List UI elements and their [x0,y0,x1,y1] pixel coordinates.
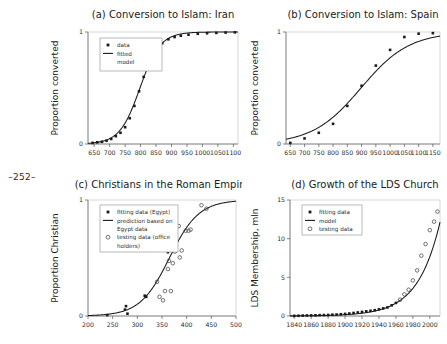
y-axis-label-c: Proportion Christian [50,213,60,302]
data-point-d [335,313,338,316]
x-tick-label-d: 1960 [388,321,404,328]
x-tick-label-d: 1860 [303,321,319,328]
data-point-a [115,135,118,138]
legend-marker-a [107,44,110,47]
y-tick-label-d: 10 [277,235,285,242]
x-tick-label-c: 350 [156,321,168,328]
x-tick-label-d: 1980 [405,321,421,328]
data-point-d [327,314,330,317]
data-point-c [178,256,182,260]
chart-panel-c: (c) Christians in the Roman EmpirePropor… [42,172,242,344]
data-point-d [428,228,432,232]
data-point-a [96,141,99,144]
data-point-c [161,299,165,303]
data-point-b [289,142,292,145]
model-curve-b [286,36,440,139]
legend-label-a: model [117,59,135,65]
data-point-d [306,314,309,317]
x-tick-label-a: 950 [181,149,193,156]
data-point-a [173,36,176,39]
x-tick-label-a: 900 [166,149,178,156]
data-point-c [126,312,129,315]
y-axis-label-d: LDS Membership, mln [250,209,260,308]
data-point-d [365,310,368,313]
data-point-d [310,314,313,317]
data-point-c [171,261,175,265]
data-point-b [317,132,320,135]
figure-page: –252– (a) Conversion to Islam: IranPropo… [0,0,447,344]
chart-svg-c: (c) Christians in the Roman EmpirePropor… [42,172,242,344]
legend-marker-c [107,211,110,214]
x-tick-label-d: 1880 [320,321,336,328]
x-tick-label-d: 1940 [371,321,387,328]
legend-label-d: fitting data [319,209,350,216]
legend-label-c: fitting data (Egypt) [117,209,170,216]
data-point-d [318,314,321,317]
y-tick-label-d: 5 [281,274,285,281]
data-point-d [424,242,428,246]
data-point-d [356,311,359,314]
data-point-d [314,314,317,317]
x-tick-label-a: 650 [88,149,100,156]
legend-label-d: model [319,218,337,224]
data-point-a [91,142,94,145]
data-point-c [169,289,173,293]
x-tick-label-a: 700 [104,149,116,156]
y-tick-label-b: 1 [277,28,281,35]
legend-label-c: holders) [117,243,140,249]
data-point-d [323,314,326,317]
data-point-a [105,139,108,142]
data-point-b [403,36,406,39]
data-point-d [407,288,411,292]
x-tick-label-b: 950 [370,149,382,156]
y-tick-label-c: 0 [79,312,83,319]
data-point-d [340,313,343,316]
chart-svg-a: (a) Conversion to Islam: IranProportion … [42,2,242,172]
x-tick-label-d: 2000 [422,321,438,328]
data-point-c [180,249,184,253]
x-tick-label-c: 500 [230,321,242,328]
y-axis-label-a: Proportion converted [50,41,60,136]
data-point-d [382,307,385,310]
x-tick-label-a: 1050 [210,149,226,156]
x-tick-label-c: 300 [131,321,143,328]
data-point-b [389,49,392,52]
x-tick-label-a: 1000 [195,149,211,156]
legend-label-c: Egypt data [117,226,148,233]
figure-grid: (a) Conversion to Islam: IranProportion … [42,0,447,344]
data-point-d [390,304,393,307]
chart-title-d: (d) Growth of the LDS Church [291,179,438,190]
x-tick-label-b: 900 [356,149,368,156]
y-tick-label-d: 0 [281,312,285,319]
data-point-a [196,32,199,35]
chart-title-b: (b) Conversion to Islam: Spain [287,9,438,20]
y-tick-label-b: 0 [277,140,281,147]
data-point-a [124,126,127,129]
chart-panel-b: (b) Conversion to Islam: SpainProportion… [242,2,447,172]
chart-title-c: (c) Christians in the Roman Empire [75,179,242,190]
chart-svg-d: (d) Growth of the LDS ChurchLDS Membersh… [242,172,447,344]
data-point-d [348,312,351,315]
x-tick-label-b: 850 [341,149,353,156]
data-point-a [187,33,190,36]
x-tick-label-b: 650 [284,149,296,156]
chart-panel-a: (a) Conversion to Islam: IranProportion … [42,2,242,172]
legend-label-c: testing data (office [117,234,171,241]
data-point-b [303,137,306,140]
x-tick-label-a: 750 [119,149,131,156]
data-point-a [167,38,170,41]
legend-label-a: data [117,42,130,48]
x-tick-label-b: 750 [313,149,325,156]
x-tick-label-c: 400 [181,321,193,328]
model-curve-d [290,222,440,316]
x-tick-label-c: 450 [205,321,217,328]
x-tick-label-b: 700 [299,149,311,156]
data-point-c [145,296,148,299]
y-axis-label-b: Proportion converted [250,41,260,136]
data-point-a [142,76,145,79]
y-tick-label-a: 1 [79,28,83,35]
data-point-a [119,132,122,135]
data-point-a [234,31,237,34]
data-point-a [224,31,227,34]
chart-panel-d: (d) Growth of the LDS ChurchLDS Membersh… [242,172,447,344]
